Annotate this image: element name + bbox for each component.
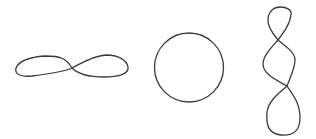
vertical-double-twist-shape [263, 7, 300, 135]
horizontal-figure-eight-shape [16, 55, 128, 77]
figure-canvas [0, 0, 316, 139]
circle-shape [155, 33, 224, 102]
